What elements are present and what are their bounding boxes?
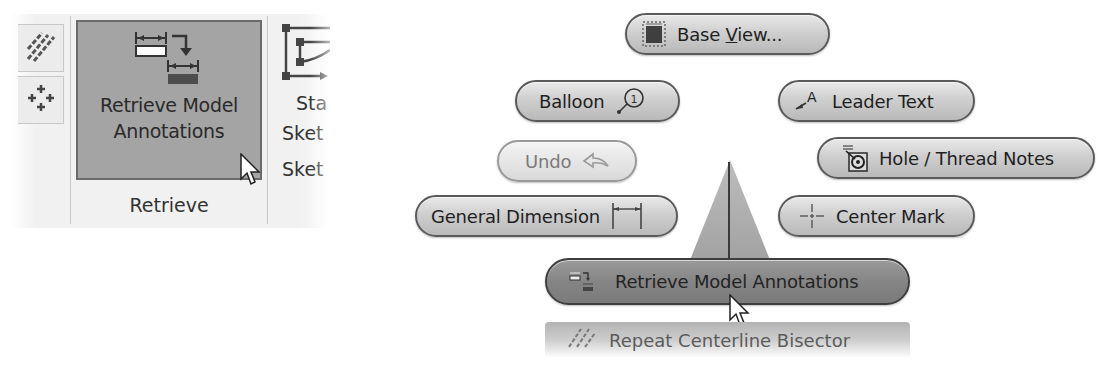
retrieve-model-annotations-button[interactable]: Retrieve Model Annotations	[76, 20, 262, 180]
retrieve-model-annotations-item[interactable]: Retrieve Model Annotations	[545, 258, 910, 305]
general-dimension-label: General Dimension	[431, 206, 600, 227]
retrieve-group-label: Retrieve	[72, 194, 266, 216]
svg-text:A: A	[807, 89, 817, 105]
ribbon-panel: Retrieve Model Annotations Retrieve Sta	[10, 14, 332, 228]
hole-thread-icon	[841, 143, 869, 173]
hatch-lines-icon	[24, 29, 58, 67]
mouse-cursor	[240, 153, 262, 191]
retrieve-button-label-line1: Retrieve Model	[100, 92, 238, 118]
base-view-item[interactable]: Base View...	[625, 13, 830, 55]
hole-thread-notes-label: Hole / Thread Notes	[879, 148, 1054, 169]
center-mark-item[interactable]: Center Mark	[778, 195, 975, 237]
ribbon-divider	[267, 16, 268, 224]
general-dimension-item[interactable]: General Dimension	[415, 195, 678, 237]
center-pattern-icon	[24, 81, 58, 119]
retrieve-button-label-line2: Annotations	[114, 118, 225, 144]
ribbon-fade	[310, 14, 342, 228]
leader-text-label: Leader Text	[832, 91, 934, 112]
base-view-label: Base View...	[677, 24, 782, 45]
undo-arrow-icon	[581, 151, 611, 171]
balloon-item[interactable]: Balloon 1	[515, 80, 680, 122]
svg-text:1: 1	[631, 93, 638, 106]
ribbon-divider	[70, 16, 71, 224]
marking-menu-direction-line	[728, 162, 730, 260]
balloon-label: Balloon	[539, 91, 604, 112]
dimension-icon	[610, 201, 644, 231]
centerline-bisector-icon	[567, 327, 597, 353]
base-view-icon	[641, 20, 667, 48]
repeat-centerline-bisector-item[interactable]: Repeat Centerline Bisector	[545, 322, 910, 358]
center-mark-label: Center Mark	[836, 206, 945, 227]
balloon-icon: 1	[614, 87, 646, 115]
center-mark-icon	[798, 202, 826, 230]
marking-menu-direction-indicator	[690, 160, 770, 260]
leader-text-item[interactable]: A Leader Text	[778, 80, 975, 122]
undo-label: Undo	[525, 151, 571, 172]
retrieve-annotations-icon	[134, 30, 204, 88]
hatch-button[interactable]	[18, 24, 64, 72]
hole-thread-notes-item[interactable]: Hole / Thread Notes	[817, 137, 1095, 179]
center-pattern-button[interactable]	[18, 76, 64, 124]
retrieve-model-annotations-label: Retrieve Model Annotations	[615, 271, 858, 292]
retrieve-annotations-icon	[569, 271, 595, 293]
leader-text-icon: A	[794, 89, 822, 113]
repeat-centerline-bisector-label: Repeat Centerline Bisector	[609, 330, 850, 351]
undo-item[interactable]: Undo	[497, 140, 637, 182]
